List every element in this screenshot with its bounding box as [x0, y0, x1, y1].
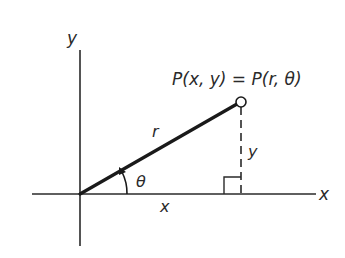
point-label: P(x, y) = P(r, θ) — [172, 69, 302, 89]
y-axis-label: y — [66, 28, 78, 48]
radius-label: r — [152, 122, 160, 141]
horizontal-leg-label: x — [159, 197, 170, 216]
radius-line — [80, 104, 237, 194]
point-p — [236, 97, 246, 107]
vertical-leg-label: y — [247, 142, 258, 161]
polar-coordinates-diagram: y x P(x, y) = P(r, θ) r θ x y — [0, 0, 345, 258]
right-angle-marker — [224, 177, 241, 194]
angle-label: θ — [136, 172, 146, 191]
angle-arc — [122, 172, 127, 194]
x-axis-label: x — [318, 184, 330, 204]
